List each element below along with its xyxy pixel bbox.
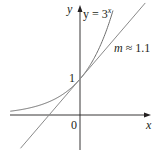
exp-curve [10, 11, 113, 112]
curve-label: y = 3x [83, 7, 111, 20]
origin-label: 0 [71, 119, 77, 131]
y-axis-arrow-icon [78, 5, 83, 12]
slope-label-var: m [114, 41, 123, 55]
x-axis-arrow-icon [144, 113, 151, 118]
slope-label: m ≈ 1.1 [114, 42, 150, 54]
curve-label-exponent: x [108, 6, 112, 15]
tangent-line [21, 3, 146, 148]
y-axis-label: y [67, 3, 72, 15]
x-axis-label: x [146, 119, 151, 131]
plot-area [0, 0, 159, 163]
slope-label-value: ≈ 1.1 [123, 41, 151, 55]
tick-label-y-1: 1 [69, 72, 75, 84]
curve-label-base: y = 3 [83, 7, 108, 21]
chart: y x 0 1 y = 3x m ≈ 1.1 [0, 0, 159, 163]
